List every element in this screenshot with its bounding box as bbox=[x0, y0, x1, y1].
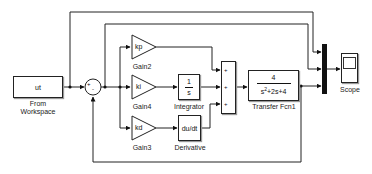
derivative-value: du/dt bbox=[182, 125, 198, 132]
gain2-value[interactable]: kp bbox=[135, 43, 142, 50]
derivative-label: Derivative bbox=[169, 144, 211, 152]
gain4-label: Gain4 bbox=[127, 103, 157, 111]
integrator-block[interactable]: 1 s bbox=[178, 74, 200, 100]
transfer-fcn-numerator: 4 bbox=[272, 74, 276, 82]
from-workspace-value: ut bbox=[35, 84, 41, 91]
scope-block[interactable] bbox=[341, 53, 358, 83]
transfer-fcn-block[interactable]: 4 s2+2s+4 bbox=[248, 70, 299, 101]
sum1-minus-sign: - bbox=[92, 86, 94, 92]
scope-label: Scope bbox=[334, 86, 366, 94]
gain3-value[interactable]: kd bbox=[135, 124, 142, 131]
from-workspace-block[interactable]: ut bbox=[13, 76, 63, 98]
integrator-numerator: 1 bbox=[187, 78, 191, 86]
derivative-block[interactable]: du/dt bbox=[178, 115, 201, 141]
gain4-value[interactable]: ki bbox=[136, 83, 141, 90]
mux-bar bbox=[322, 44, 327, 94]
integrator-label: Integrator bbox=[169, 103, 209, 111]
transfer-fcn-denominator: s2+2s+4 bbox=[261, 85, 287, 96]
sum2-sign-1: + bbox=[224, 67, 228, 73]
sum2-sign-2: + bbox=[224, 84, 228, 90]
sum2-sign-3: + bbox=[224, 101, 228, 107]
simulink-canvas: ut From Workspace + - kp Gain2 ki Gain4 … bbox=[0, 0, 372, 174]
transfer-fcn-label: Transfer Fcn1 bbox=[244, 103, 304, 111]
sum2-block[interactable]: + + + bbox=[221, 61, 236, 114]
from-workspace-label: From Workspace bbox=[8, 100, 68, 116]
integrator-denominator: s bbox=[187, 89, 191, 97]
sum1-plus-sign: + bbox=[87, 81, 91, 87]
gain2-label: Gain2 bbox=[127, 63, 157, 71]
gain3-label: Gain3 bbox=[127, 144, 157, 152]
scope-screen-icon bbox=[343, 57, 356, 69]
